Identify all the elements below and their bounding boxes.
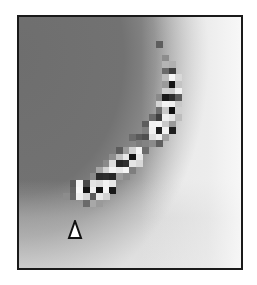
pixel-cell: [96, 200, 103, 207]
pixel-cell: [162, 134, 169, 141]
pixel-cell: [123, 173, 130, 180]
pixel-cell: [103, 193, 110, 200]
pixel-cell: [169, 127, 176, 134]
pixel-map-frame: [17, 15, 243, 270]
pixel-band: [19, 17, 241, 268]
pixel-cell: [175, 114, 182, 121]
pixel-cell: [156, 140, 163, 147]
pixel-cell: [129, 167, 136, 174]
pixel-cell: [136, 160, 143, 167]
pixel-cell: [142, 147, 149, 154]
pixel-cell: [109, 187, 116, 194]
pixel-cell: [156, 41, 163, 48]
